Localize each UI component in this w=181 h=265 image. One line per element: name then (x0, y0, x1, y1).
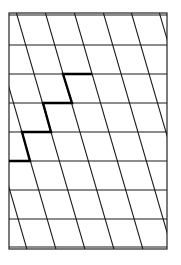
diagram-canvas (0, 0, 181, 265)
skewed-grid-diagram (0, 0, 181, 265)
highlighted-staircase-path (9, 74, 92, 161)
staircase-highlight (9, 74, 92, 161)
